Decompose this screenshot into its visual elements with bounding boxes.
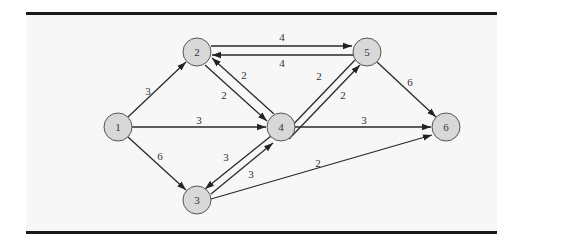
edge-label-3-4: 3 [248, 168, 254, 180]
node-label-4: 4 [278, 121, 284, 133]
edge-1-2 [128, 62, 186, 117]
node-3: 3 [183, 186, 211, 214]
edge-label-4-6: 3 [361, 114, 367, 126]
edge-2-4 [205, 65, 267, 121]
edge-4-2 [212, 58, 274, 114]
node-label-5: 5 [364, 46, 370, 58]
node-2: 2 [183, 38, 211, 66]
edge-label-3-6: 2 [315, 157, 321, 169]
edge-label-2-5: 4 [279, 31, 285, 43]
node-label-2: 2 [194, 46, 200, 58]
edge-label-5-4: 2 [316, 70, 322, 82]
edge-label-4-5: 2 [340, 89, 346, 101]
edge-label-1-4: 3 [196, 114, 202, 126]
edge-1-3 [128, 137, 186, 190]
edge-label-1-2: 3 [145, 85, 151, 97]
node-1: 1 [104, 113, 132, 141]
edge-3-4 [211, 143, 273, 194]
edge-5-6 [377, 62, 436, 117]
node-label-1: 1 [115, 121, 121, 133]
edge-label-2-4: 2 [221, 89, 227, 101]
node-label-6: 6 [443, 121, 449, 133]
network-diagram: 3 3 6 4 4 2 2 2 2 3 3 3 6 2 1 2 3 4 5 6 [0, 0, 568, 245]
edge-label-1-3: 6 [157, 150, 163, 162]
edge-label-4-3: 3 [223, 151, 229, 163]
node-label-3: 3 [194, 194, 200, 206]
node-4: 4 [267, 113, 295, 141]
edge-4-3 [205, 136, 271, 189]
edge-label-5-6: 6 [407, 76, 413, 88]
node-5: 5 [353, 38, 381, 66]
edge-label-4-2: 2 [241, 69, 247, 81]
node-6: 6 [432, 113, 460, 141]
edge-4-5 [289, 65, 360, 139]
edge-label-5-2: 4 [279, 57, 285, 69]
